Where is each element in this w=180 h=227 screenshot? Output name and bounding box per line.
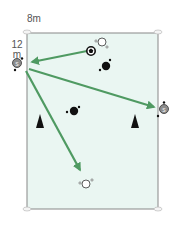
corner-marker-icon xyxy=(154,30,162,34)
corner-marker-icon xyxy=(154,207,162,211)
server-player-icon: S xyxy=(13,57,24,71)
soccer-ball-icon xyxy=(87,47,95,55)
server-player-icon: S xyxy=(157,101,169,117)
corner-marker-icon xyxy=(23,30,31,34)
drill-diagram: S S xyxy=(0,0,180,227)
corner-marker-icon xyxy=(23,207,31,211)
